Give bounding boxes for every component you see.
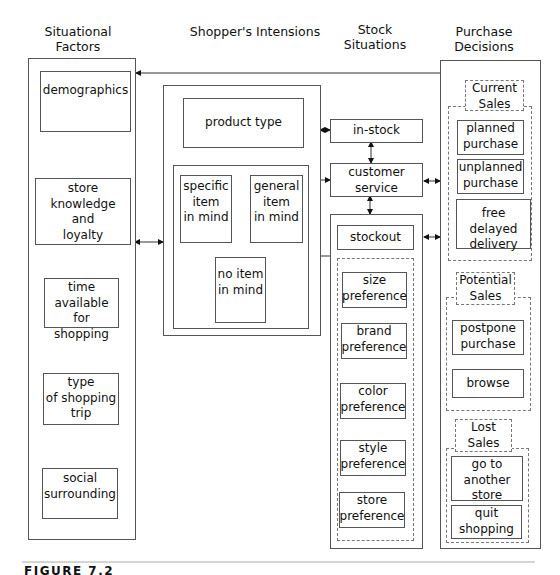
planned-purchase-box: planned purchase bbox=[457, 120, 524, 155]
general-item-box: general item in mind bbox=[250, 175, 303, 243]
demographics-box: demographics bbox=[40, 71, 131, 132]
store-preference-box: store preference bbox=[339, 492, 405, 528]
size-preference-box: size preference bbox=[342, 272, 407, 308]
shopping-trip-type-box: type of shopping trip bbox=[43, 373, 119, 425]
current-sales-label-box: Current Sales bbox=[465, 80, 524, 111]
general-item-label: general item in mind bbox=[254, 179, 300, 226]
quit-shopping-label: quit shopping bbox=[459, 506, 514, 537]
lost-sales-label: Lost Sales bbox=[468, 420, 500, 451]
time-available-box: time available for shopping bbox=[44, 278, 119, 328]
store-knowledge-label: store knowledge and loyalty bbox=[50, 181, 115, 243]
social-surrounding-box: social surrounding bbox=[42, 468, 118, 519]
social-surrounding-label: social surrounding bbox=[44, 471, 116, 502]
brand-preference-label: brand preference bbox=[342, 324, 407, 355]
color-preference-box: color preference bbox=[340, 383, 406, 419]
product-type-box: product type bbox=[183, 98, 304, 148]
unplanned-purchase-box: unplanned purchase bbox=[457, 159, 524, 194]
free-delayed-delivery-label: free delayed delivery bbox=[457, 206, 530, 253]
quit-shopping-box: quit shopping bbox=[451, 505, 522, 539]
time-available-label: time available for shopping bbox=[45, 280, 118, 342]
store-knowledge-box: store knowledge and loyalty bbox=[35, 178, 131, 245]
lost-sales-label-box: Lost Sales bbox=[455, 419, 512, 452]
store-preference-label: store preference bbox=[340, 493, 405, 524]
color-preference-label: color preference bbox=[341, 384, 406, 415]
free-delayed-delivery-box: free delayed delivery bbox=[456, 199, 531, 249]
stockout-label: stockout bbox=[350, 230, 401, 246]
customer-service-label: customer service bbox=[348, 165, 405, 196]
customer-service-box: customer service bbox=[330, 163, 423, 197]
browse-box: browse bbox=[452, 369, 524, 398]
in-stock-label: in-stock bbox=[353, 123, 400, 139]
unplanned-purchase-label: unplanned purchase bbox=[459, 160, 523, 191]
no-item-box: no item in mind bbox=[215, 257, 266, 323]
postpone-purchase-box: postpone purchase bbox=[452, 320, 524, 355]
potential-sales-label: Potential Sales bbox=[459, 273, 512, 304]
specific-item-label: specific item in mind bbox=[183, 179, 228, 226]
another-store-label: go to another store bbox=[464, 457, 511, 504]
current-sales-label: Current Sales bbox=[472, 81, 517, 112]
product-type-label: product type bbox=[205, 115, 282, 131]
browse-label: browse bbox=[466, 376, 509, 392]
potential-sales-label-box: Potential Sales bbox=[456, 272, 515, 305]
no-item-label: no item in mind bbox=[218, 267, 264, 298]
postpone-purchase-label: postpone purchase bbox=[460, 321, 516, 352]
planned-purchase-label: planned purchase bbox=[463, 121, 518, 152]
stockout-box: stockout bbox=[337, 225, 414, 250]
demographics-label: demographics bbox=[43, 83, 128, 99]
style-preference-box: style preference bbox=[340, 440, 406, 476]
size-preference-label: size preference bbox=[342, 273, 407, 304]
specific-item-box: specific item in mind bbox=[180, 175, 232, 243]
brand-preference-box: brand preference bbox=[341, 323, 407, 359]
shopping-trip-type-label: type of shopping trip bbox=[46, 375, 116, 422]
figure-caption: FIGURE 7.2 bbox=[24, 564, 114, 575]
another-store-box: go to another store bbox=[451, 456, 523, 501]
in-stock-box: in-stock bbox=[330, 119, 423, 143]
style-preference-label: style preference bbox=[341, 441, 406, 472]
